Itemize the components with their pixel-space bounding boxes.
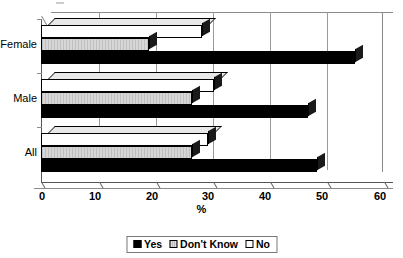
bar-body: [41, 25, 202, 38]
bar-end-cap: [214, 73, 222, 91]
x-tick-label-40: 40: [259, 190, 271, 202]
bar-male-dont-know: [41, 92, 192, 105]
legend-item-no: No: [245, 239, 270, 250]
bar-body: [41, 38, 149, 51]
bar-body: [41, 92, 192, 105]
x-tick-label-50: 50: [316, 190, 328, 202]
legend-label-yes: Yes: [144, 239, 162, 250]
bar-group-female: [41, 20, 393, 66]
bar-female-dont-know: [41, 38, 149, 51]
bar-female-no: [41, 25, 202, 38]
bar-end-cap: [192, 86, 200, 104]
category-label-female: Female: [0, 38, 37, 50]
category-label-text: All: [25, 146, 37, 158]
black-square-swatch-icon: [133, 240, 141, 248]
bar-chart: Female Male All 0 10 20 30 40 50 60 % Ye…: [0, 0, 403, 258]
bar-end-cap: [202, 19, 210, 37]
bar-end-cap: [192, 140, 200, 158]
bar-top-face: [48, 126, 222, 133]
bar-all-yes: [41, 159, 317, 172]
bar-female-yes: [41, 51, 355, 64]
x-tick-label-20: 20: [146, 190, 158, 202]
x-tick-label-0: 0: [39, 190, 45, 202]
category-tick-male: [37, 73, 42, 74]
bar-top-face: [48, 72, 228, 79]
bar-body: [41, 51, 355, 64]
bar-body: [41, 133, 208, 146]
chart-legend: Yes Don't Know No: [126, 236, 277, 253]
legend-label-no: No: [256, 239, 270, 250]
legend-label-dont-know: Don't Know: [180, 239, 238, 250]
bar-all-no: [41, 133, 208, 146]
bar-body: [41, 105, 308, 118]
bar-body: [41, 159, 317, 172]
bar-end-cap: [355, 45, 363, 63]
bar-male-yes: [41, 105, 308, 118]
category-tick-all: [37, 127, 42, 128]
bar-end-cap: [308, 99, 316, 117]
x-axis-front-edge: [34, 188, 393, 189]
legend-item-dont-know: Don't Know: [169, 239, 238, 250]
bar-group-all: [41, 128, 393, 174]
bar-body: [41, 146, 192, 159]
bar-end-cap: [208, 127, 216, 145]
scan-artifact: [56, 2, 64, 4]
plot-area: [41, 14, 393, 182]
category-tick-female: [37, 19, 42, 20]
x-tick-label-10: 10: [89, 190, 101, 202]
category-label-text: Female: [0, 38, 37, 50]
bar-all-dont-know: [41, 146, 192, 159]
category-label-text: Male: [13, 92, 37, 104]
category-label-male: Male: [0, 92, 37, 104]
category-label-all: All: [0, 146, 37, 158]
x-axis-title: %: [0, 203, 403, 215]
plot-top-rail: [51, 12, 393, 13]
bar-body: [41, 79, 214, 92]
bar-group-male: [41, 74, 393, 120]
bar-end-cap: [149, 32, 157, 50]
x-tick-label-30: 30: [202, 190, 214, 202]
gray-hatched-square-swatch-icon: [169, 240, 177, 248]
x-tick-label-60: 60: [374, 190, 386, 202]
bar-male-no: [41, 79, 214, 92]
bar-end-cap: [317, 153, 325, 171]
x-axis: 0 10 20 30 40 50 60: [0, 182, 403, 204]
bar-top-face: [48, 18, 216, 25]
white-square-swatch-icon: [245, 240, 253, 248]
legend-item-yes: Yes: [133, 239, 162, 250]
